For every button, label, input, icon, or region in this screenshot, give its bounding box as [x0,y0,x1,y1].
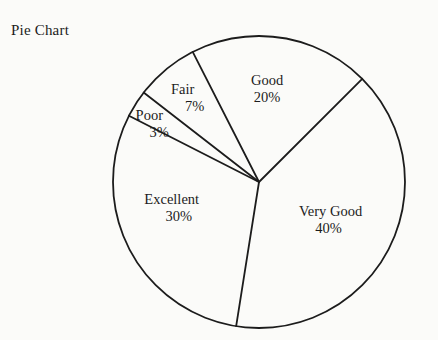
slice-label: Excellent [144,191,199,207]
slice-percentage: 40% [315,220,342,236]
slice-percentage: 3% [150,124,169,140]
pie-chart: Good20%Very Good40%Excellent30%Poor3%Fai… [0,0,438,340]
slice-percentage: 20% [254,89,281,105]
slice-percentage: 7% [185,98,204,114]
slice-label: Very Good [299,203,363,219]
slice-boundary [129,116,259,182]
slice-label: Good [251,72,284,88]
slice-boundary [193,52,259,182]
slice-percentage: 30% [165,208,192,224]
slice-label: Fair [171,81,195,97]
slice-boundary [236,182,259,326]
slice-label: Poor [136,107,164,123]
figure-canvas: Pie Chart Good20%Very Good40%Excellent30… [0,0,438,340]
